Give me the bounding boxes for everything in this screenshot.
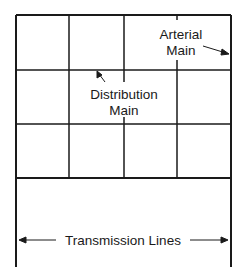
arterial-arrowhead bbox=[221, 49, 229, 55]
arterial-main-label-2: Main bbox=[166, 43, 195, 58]
transmission-arrowhead-right bbox=[221, 237, 228, 243]
distribution-main-label-1: Distribution bbox=[90, 87, 158, 102]
arterial-main-label-1: Arterial bbox=[160, 27, 203, 42]
transmission-arrowhead-left bbox=[19, 237, 26, 243]
network-diagram: Arterial Main Distribution Main Transmis… bbox=[0, 0, 242, 278]
distribution-main-label-2: Main bbox=[109, 103, 138, 118]
transmission-lines-label: Transmission Lines bbox=[65, 233, 181, 248]
